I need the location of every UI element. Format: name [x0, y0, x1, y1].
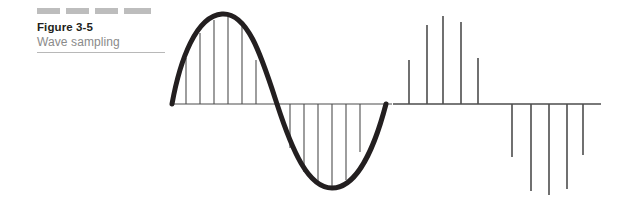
impulses-negative	[512, 104, 583, 195]
figure-page: Figure 3-5 Wave sampling	[0, 0, 630, 200]
figure-graphic	[0, 0, 630, 200]
continuous-wave-chart	[172, 14, 392, 188]
sampled-impulse-chart	[393, 16, 601, 195]
impulses-positive	[409, 16, 478, 104]
sample-lines-lower	[290, 104, 360, 188]
sine-wave-curve	[172, 14, 386, 188]
